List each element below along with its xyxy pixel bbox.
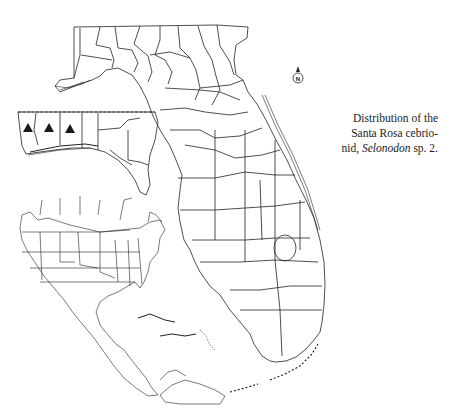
north-arrow-icon: N <box>293 66 303 83</box>
map-canvas: N <box>0 0 454 412</box>
figure-caption: Distribution of the Santa Rosa cebrio- n… <box>326 111 438 156</box>
caption-line-1: Distribution of the <box>326 111 438 126</box>
north-america-inset-map <box>20 196 225 404</box>
svg-text:N: N <box>296 76 300 82</box>
caption-suffix: sp. 2. <box>411 142 438 154</box>
florida-main-map <box>55 25 325 392</box>
distribution-map-figure: N Distribution of the Santa Rosa cebrio-… <box>0 0 454 412</box>
triangle-marker-icon <box>65 124 75 133</box>
species-genus-name: Selonodon <box>362 142 411 154</box>
occurrence-markers <box>23 123 75 133</box>
panhandle-inset-map <box>18 112 158 195</box>
triangle-marker-icon <box>23 123 33 132</box>
caption-line-2: Santa Rosa cebrio- <box>326 126 438 141</box>
caption-line-3: nid, Selonodon sp. 2. <box>326 141 438 156</box>
triangle-marker-icon <box>44 123 54 132</box>
caption-prefix: nid, <box>342 142 362 154</box>
